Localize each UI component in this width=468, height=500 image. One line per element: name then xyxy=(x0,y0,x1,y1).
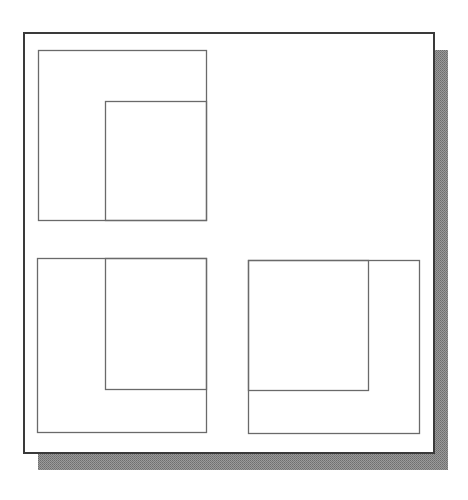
diagram-stage xyxy=(0,0,468,500)
nested-squares-diagram xyxy=(0,0,468,500)
outer-frame xyxy=(24,33,434,453)
